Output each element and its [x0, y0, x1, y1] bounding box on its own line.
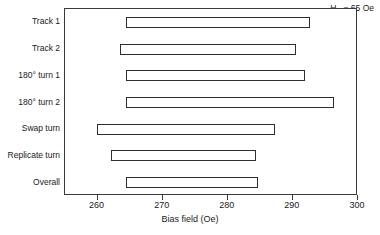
x-axis-title: Bias field (Oe) [0, 214, 380, 224]
chart-figure: HD = 65 Oe Track 1Track 2180° turn 1180°… [0, 0, 380, 235]
bar-replicate-turn [111, 150, 256, 161]
y-axis-labels: Track 1Track 2180° turn 1180° turn 2Swap… [0, 8, 60, 195]
x-axis-tick-label: 270 [154, 200, 169, 211]
x-axis-tick-label: 300 [349, 200, 364, 211]
x-axis-tick-label: 290 [284, 200, 299, 211]
y-axis-label: Track 1 [0, 16, 60, 26]
plot-area [64, 8, 357, 195]
bar-track-1 [126, 17, 311, 28]
x-axis: 260270280290300 [64, 195, 357, 215]
bar-swap-turn [97, 124, 275, 135]
bar-180-turn-1 [126, 70, 305, 81]
y-axis-label: Overall [0, 177, 60, 187]
x-axis-tick-label: 280 [219, 200, 234, 211]
x-axis-tick-label: 260 [89, 200, 104, 211]
bar-overall [126, 177, 258, 188]
y-axis-label: 180° turn 1 [0, 70, 60, 80]
y-axis-label: Track 2 [0, 43, 60, 53]
y-axis-label: Replicate turn [0, 150, 60, 160]
bar-180-turn-2 [126, 97, 334, 108]
bar-track-2 [120, 44, 296, 55]
y-axis-label: Swap turn [0, 123, 60, 133]
y-axis-label: 180° turn 2 [0, 97, 60, 107]
